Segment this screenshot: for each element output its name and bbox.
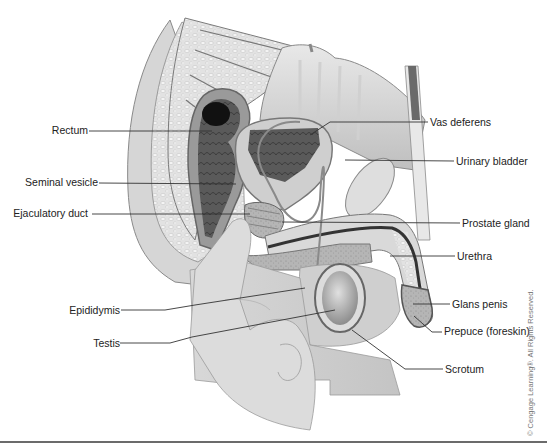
glans-penis xyxy=(402,285,433,327)
label-rectum: Rectum xyxy=(20,124,88,136)
scrotum xyxy=(299,264,400,346)
leader-prostate-gland xyxy=(282,222,460,223)
label-prepuce: Prepuce (foreskin) xyxy=(444,325,530,337)
urinary-bladder xyxy=(235,118,332,210)
testis xyxy=(322,271,358,325)
label-epididymis: Epididymis xyxy=(40,304,120,316)
anatomy-diagram: Rectum Seminal vesicle Ejaculatory duct … xyxy=(0,0,547,448)
label-testis: Testis xyxy=(60,337,120,349)
bottom-rule xyxy=(0,441,547,443)
label-vas-deferens: Vas deferens xyxy=(430,116,491,128)
leader-epididymis xyxy=(121,305,195,310)
leader-testis xyxy=(120,337,192,343)
rectal-lumen xyxy=(202,102,230,126)
leader-urinary-bladder xyxy=(345,160,454,161)
copyright-notice: © Cengage Learning®. All Rights Reserved… xyxy=(526,289,535,436)
label-scrotum: Scrotum xyxy=(445,363,484,375)
label-prostate-gland: Prostate gland xyxy=(462,217,530,229)
label-seminal-vesicle: Seminal vesicle xyxy=(10,176,98,188)
label-urinary-bladder: Urinary bladder xyxy=(456,155,528,167)
label-glans-penis: Glans penis xyxy=(452,298,507,310)
label-ejaculatory-duct: Ejaculatory duct xyxy=(0,207,88,219)
label-urethra: Urethra xyxy=(457,250,492,262)
